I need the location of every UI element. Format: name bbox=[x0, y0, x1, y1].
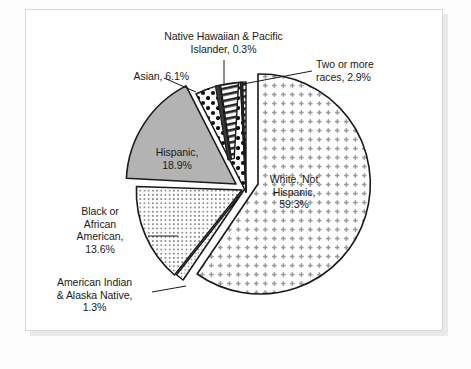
label-two-or-more-races: Two or more races, 2.9% bbox=[316, 58, 408, 83]
label-american-indian-alaska-native: American Indian & Alaska Native, 1.3% bbox=[32, 276, 157, 314]
label-native-hawaiian-pacific-islander: Native Hawaiian & Pacific Islander, 0.3% bbox=[131, 30, 316, 55]
leader-line-american-indian bbox=[152, 286, 186, 292]
label-asian: Asian, 6.1% bbox=[99, 70, 189, 83]
pie-chart-svg bbox=[0, 0, 471, 369]
label-white-not-hispanic: White, Not Hispanic, 59.3% bbox=[249, 173, 339, 211]
page-background: Native Hawaiian & Pacific Islander, 0.3%… bbox=[0, 0, 471, 369]
label-black-or-african-american: Black or African American, 13.6% bbox=[52, 205, 148, 255]
label-hispanic: Hispanic, 18.9% bbox=[140, 146, 214, 171]
pie-chart: Native Hawaiian & Pacific Islander, 0.3%… bbox=[0, 0, 471, 369]
